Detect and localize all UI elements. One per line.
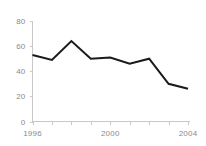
data-series-line: [33, 41, 189, 89]
line-chart: 020406080 199620002004: [0, 0, 206, 146]
y-tick-label: 80: [16, 17, 26, 26]
x-tick-label: 2000: [101, 129, 120, 138]
x-axis-tick-labels: 199620002004: [23, 129, 197, 138]
y-axis: 020406080: [16, 17, 32, 127]
y-axis-tick-labels: 020406080: [16, 17, 26, 127]
chart-canvas: 020406080 199620002004: [0, 0, 206, 146]
y-tick-label: 0: [21, 118, 26, 127]
plot-area: [33, 41, 189, 89]
y-tick-label: 60: [16, 42, 26, 51]
x-tick-label: 1996: [23, 129, 42, 138]
x-axis: 199620002004: [23, 122, 197, 138]
x-tick-label: 2004: [179, 129, 198, 138]
y-tick-label: 40: [16, 67, 26, 76]
y-tick-label: 20: [16, 92, 26, 101]
